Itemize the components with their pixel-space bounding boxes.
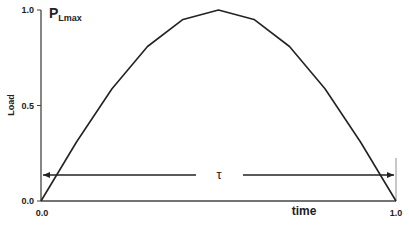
x-tick-label-0: 0.0 <box>36 208 49 218</box>
peak-load-label-sub: Lmax <box>58 13 82 23</box>
duration-label-tau: τ <box>216 167 222 182</box>
y-tick-label-05: 0.5 <box>21 101 34 111</box>
x-tick-label-1: 1.0 <box>390 208 403 218</box>
y-axis-title: Load <box>6 94 16 116</box>
load-time-chart: 1.0 0.5 0.0 0.0 1.0 Load time PLmax τ <box>0 0 409 227</box>
y-tick-label-1: 1.0 <box>21 5 34 15</box>
x-ticks: 0.0 1.0 <box>36 208 403 218</box>
peak-load-label: PLmax <box>49 5 82 23</box>
peak-load-label-main: P <box>49 5 58 21</box>
y-ticks: 1.0 0.5 0.0 <box>21 5 41 206</box>
y-tick-label-0: 0.0 <box>21 196 34 206</box>
x-axis-title: time <box>292 204 317 218</box>
